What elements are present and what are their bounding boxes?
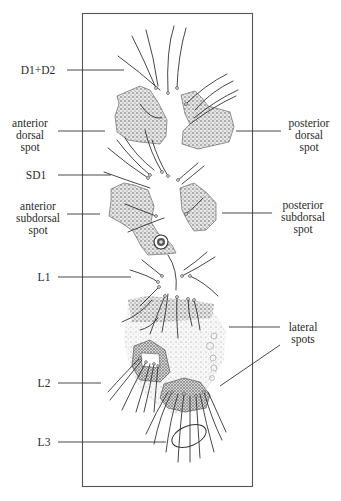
posterior-dorsal-spot-shape xyxy=(181,91,234,149)
label-sd1: SD1 xyxy=(14,169,58,181)
label-l1: L1 xyxy=(30,271,58,283)
label-d1-d2: D1+D2 xyxy=(10,64,66,76)
anterior-dorsal-spot-shape xyxy=(115,86,167,144)
leader-lines-right xyxy=(220,131,281,386)
spiracle xyxy=(154,235,168,249)
label-lateral-spots: lateral spots xyxy=(280,321,326,345)
posterior-subdorsal-spot-shape xyxy=(180,183,216,231)
lateral-band-upper xyxy=(128,296,214,322)
ellipse-marking xyxy=(169,420,210,452)
label-l3: L3 xyxy=(30,436,58,448)
label-posterior-dorsal-spot: posterior dorsal spot xyxy=(280,117,338,153)
label-posterior-subdorsal-spot: posterior subdorsal spot xyxy=(272,199,334,235)
label-anterior-dorsal-spot: anterior dorsal spot xyxy=(2,117,58,153)
label-l2: L2 xyxy=(30,377,58,389)
diagram-canvas: D1+D2 anterior dorsal spot SD1 anterior … xyxy=(0,0,341,501)
label-anterior-subdorsal-spot: anterior subdorsal spot xyxy=(10,200,66,236)
